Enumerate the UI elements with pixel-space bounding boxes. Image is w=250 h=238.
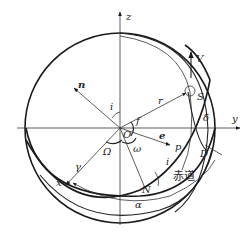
y-axis-label: y: [231, 113, 238, 124]
orbit-diagram: z y x n i r S V δ O f e p Ω ω γ i N 赤道 D…: [0, 0, 250, 238]
equator-label: 赤道: [173, 169, 195, 183]
vernal-equinox-label: γ: [75, 161, 81, 172]
ascending-node-label: N: [141, 184, 152, 195]
declination-label: δ: [203, 112, 209, 123]
x-axis-label: x: [56, 177, 62, 188]
raan-label: Ω: [102, 146, 111, 157]
inclination-top-label: i: [110, 101, 113, 112]
z-axis-label: z: [125, 11, 132, 22]
perigee-label: p: [175, 141, 182, 152]
true-anomaly-arc: [131, 122, 134, 136]
inclination-node-label: i: [166, 156, 169, 167]
velocity-label: V: [196, 53, 205, 64]
equator-curve: [26, 128, 215, 196]
x-axis: [66, 128, 120, 185]
arg-perigee-label: ω: [133, 143, 141, 154]
origin-label: O: [123, 129, 131, 140]
eccentricity-label: e: [159, 130, 165, 141]
subpoint-label: D: [199, 148, 208, 159]
right-ascension-label: α: [135, 199, 142, 210]
satellite-label: S: [197, 91, 204, 102]
inclination-arc-top: [112, 112, 120, 118]
radius-vector: [120, 93, 186, 128]
radius-label: r: [158, 95, 164, 106]
normal-vector-label: n: [78, 79, 85, 90]
